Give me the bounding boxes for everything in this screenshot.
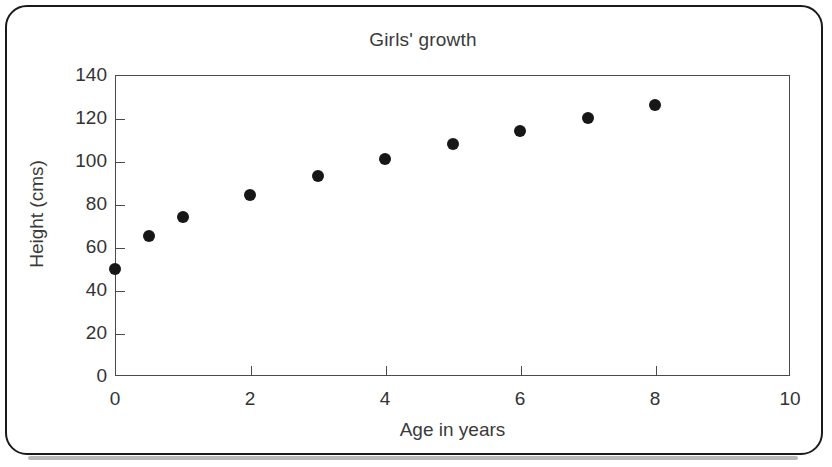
y-axis-tick-label: 120 bbox=[47, 107, 107, 129]
x-axis-tick-label: 4 bbox=[355, 388, 415, 410]
y-axis-tick-label: 100 bbox=[47, 150, 107, 172]
data-point bbox=[109, 263, 121, 275]
plot-area bbox=[115, 75, 790, 376]
x-axis-tick-labels: 0246810 bbox=[115, 388, 790, 414]
data-point bbox=[447, 138, 459, 150]
x-axis-tick-label: 2 bbox=[220, 388, 280, 410]
data-point bbox=[379, 153, 391, 165]
x-axis-tick-label: 8 bbox=[625, 388, 685, 410]
y-axis-tick-label: 60 bbox=[47, 236, 107, 258]
data-point bbox=[143, 230, 155, 242]
card-shadow bbox=[28, 456, 798, 460]
chart-title: Girls' growth bbox=[7, 29, 832, 51]
data-point bbox=[312, 170, 324, 182]
data-point bbox=[649, 99, 661, 111]
y-axis-tick-labels: 020406080100120140 bbox=[39, 75, 107, 376]
x-axis-tick-label: 0 bbox=[85, 388, 145, 410]
x-axis-tick-label: 10 bbox=[760, 388, 820, 410]
data-point bbox=[514, 125, 526, 137]
y-axis-tick-label: 20 bbox=[47, 322, 107, 344]
data-point bbox=[177, 211, 189, 223]
y-axis-tick-label: 0 bbox=[47, 365, 107, 387]
data-point bbox=[582, 112, 594, 124]
x-axis-tick-label: 6 bbox=[490, 388, 550, 410]
y-axis-tick-label: 40 bbox=[47, 279, 107, 301]
data-point bbox=[244, 189, 256, 201]
y-axis-tick-label: 140 bbox=[47, 64, 107, 86]
figure-card: Girls' growth Height (cms) 0204060801001… bbox=[5, 5, 823, 455]
x-axis-title: Age in years bbox=[115, 419, 790, 441]
y-axis-tick-label: 80 bbox=[47, 193, 107, 215]
